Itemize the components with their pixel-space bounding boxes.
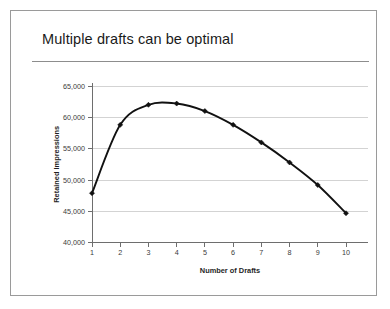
data-point-marker (90, 191, 95, 196)
x-axis-tick-labels: 12345678910 (90, 248, 350, 257)
y-axis-ticks (88, 86, 92, 243)
x-axis-tick-label: 3 (146, 248, 150, 257)
x-axis-tick-label: 8 (288, 248, 292, 257)
x-axis-tick-label: 1 (90, 248, 94, 257)
chart-canvas: 40,00045,00050,00055,00060,00065,000 123… (11, 11, 378, 297)
x-axis-tick-label: 7 (259, 248, 263, 257)
chart-gridlines (92, 86, 368, 243)
data-point-marker (202, 109, 207, 114)
y-axis-tick-label: 45,000 (63, 207, 85, 216)
x-axis-tick-label: 4 (175, 248, 179, 257)
y-axis-tick-label: 55,000 (63, 144, 85, 153)
data-point-marker (174, 101, 179, 106)
x-axis-tick-label: 6 (231, 248, 235, 257)
data-point-marker (146, 102, 151, 107)
x-axis-ticks (92, 243, 346, 247)
x-axis-tick-label: 2 (118, 248, 122, 257)
x-axis-tick-label: 10 (342, 248, 350, 257)
x-axis-title: Number of Drafts (200, 266, 260, 275)
y-axis-tick-labels: 40,00045,00050,00055,00060,00065,000 (63, 82, 85, 248)
series-line-retained-impressions (92, 102, 346, 213)
y-axis-tick-label: 40,000 (63, 238, 85, 247)
line-chart: 40,00045,00050,00055,00060,00065,000 123… (11, 11, 378, 297)
y-axis-tick-label: 60,000 (63, 113, 85, 122)
x-axis-tick-label: 9 (316, 248, 320, 257)
y-axis-tick-label: 50,000 (63, 176, 85, 185)
x-axis-tick-label: 5 (203, 248, 207, 257)
y-axis-tick-label: 65,000 (63, 82, 85, 91)
y-axis-title: Retained Impressions (52, 126, 61, 203)
slide-frame: Multiple drafts can be optimal 40,00045,… (10, 10, 377, 296)
